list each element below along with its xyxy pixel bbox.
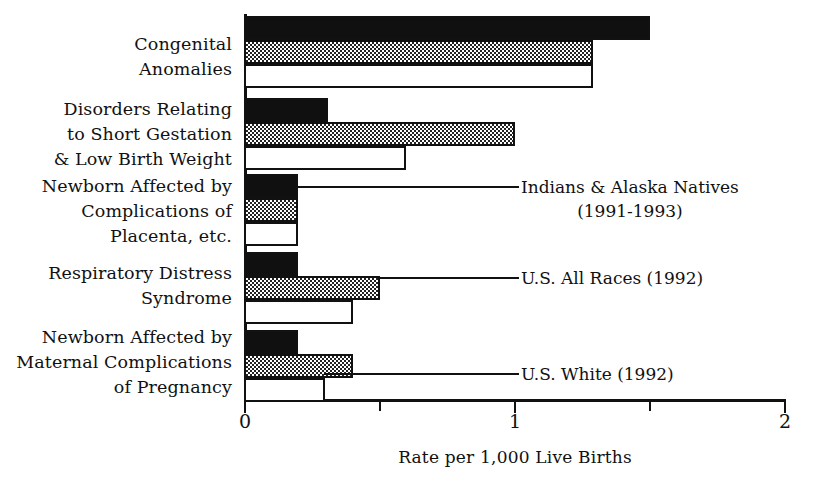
category-axis-labels: Congenital Anomalies Disorders Relating … — [0, 14, 238, 400]
category-label-line: Disorders Relating — [0, 97, 232, 122]
bar-respiratory-distress-white — [244, 300, 353, 324]
bar-maternal-complications-indians — [244, 330, 298, 354]
category-label-congenital-anomalies: Congenital Anomalies — [0, 32, 232, 82]
category-label-line: Complications of — [0, 199, 232, 224]
category-label-line: Syndrome — [0, 286, 232, 311]
bar-congenital-anomalies-white — [244, 64, 593, 88]
bar-placenta-white — [244, 222, 298, 246]
bar-placenta-indians — [244, 174, 298, 198]
bar-short-gestation-indians — [244, 98, 328, 122]
annotation-line-1: U.S. All Races (1992) — [521, 268, 703, 288]
bar-maternal-complications-white — [244, 378, 325, 402]
annotation-us-all-races: U.S. All Races (1992) — [521, 266, 703, 290]
category-label-line: to Short Gestation — [0, 122, 232, 147]
x-axis-tick-label-2: 2 — [765, 410, 805, 432]
annotation-line-1: U.S. White (1992) — [521, 364, 674, 384]
category-label-line: Newborn Affected by — [0, 174, 232, 199]
category-label-maternal-complications: Newborn Affected by Maternal Complicatio… — [0, 325, 232, 400]
annotation-line-2: (1991-1993) — [521, 199, 739, 223]
category-label-line: of Pregnancy — [0, 375, 232, 400]
category-label-line: Anomalies — [0, 57, 232, 82]
x-axis-tick-0-5 — [379, 402, 381, 411]
bar-short-gestation-white — [244, 146, 406, 170]
annotation-us-white: U.S. White (1992) — [521, 362, 674, 386]
x-axis-tick-1-5 — [649, 402, 651, 411]
category-label-line: Placenta, etc. — [0, 224, 232, 249]
category-label-line: Respiratory Distress — [0, 261, 232, 286]
x-axis-tick-label-0: 0 — [225, 410, 265, 432]
leader-line-indians — [297, 186, 519, 188]
bar-congenital-anomalies-indians — [244, 16, 650, 40]
category-label-short-gestation: Disorders Relating to Short Gestation & … — [0, 97, 232, 172]
bar-congenital-anomalies-all-races — [244, 40, 593, 64]
category-label-line: Newborn Affected by — [0, 325, 232, 350]
annotation-indians-alaska-natives: Indians & Alaska Natives (1991-1993) — [521, 175, 739, 223]
leader-line-all-races — [379, 277, 519, 279]
annotation-line-1: Indians & Alaska Natives — [521, 177, 739, 197]
bar-placenta-all-races — [244, 198, 298, 222]
category-label-placenta-complications: Newborn Affected by Complications of Pla… — [0, 174, 232, 249]
x-axis-title: Rate per 1,000 Live Births — [244, 447, 786, 467]
bar-respiratory-distress-indians — [244, 252, 298, 276]
category-label-respiratory-distress: Respiratory Distress Syndrome — [0, 261, 232, 311]
bar-respiratory-distress-all-races — [244, 276, 380, 300]
category-label-line: Maternal Complications — [0, 350, 232, 375]
bar-short-gestation-all-races — [244, 122, 515, 146]
category-label-line: & Low Birth Weight — [0, 147, 232, 172]
bar-chart: Congenital Anomalies Disorders Relating … — [0, 0, 823, 491]
leader-line-white — [324, 373, 519, 375]
x-axis-tick-label-1: 1 — [495, 410, 535, 432]
category-label-line: Congenital — [0, 32, 232, 57]
